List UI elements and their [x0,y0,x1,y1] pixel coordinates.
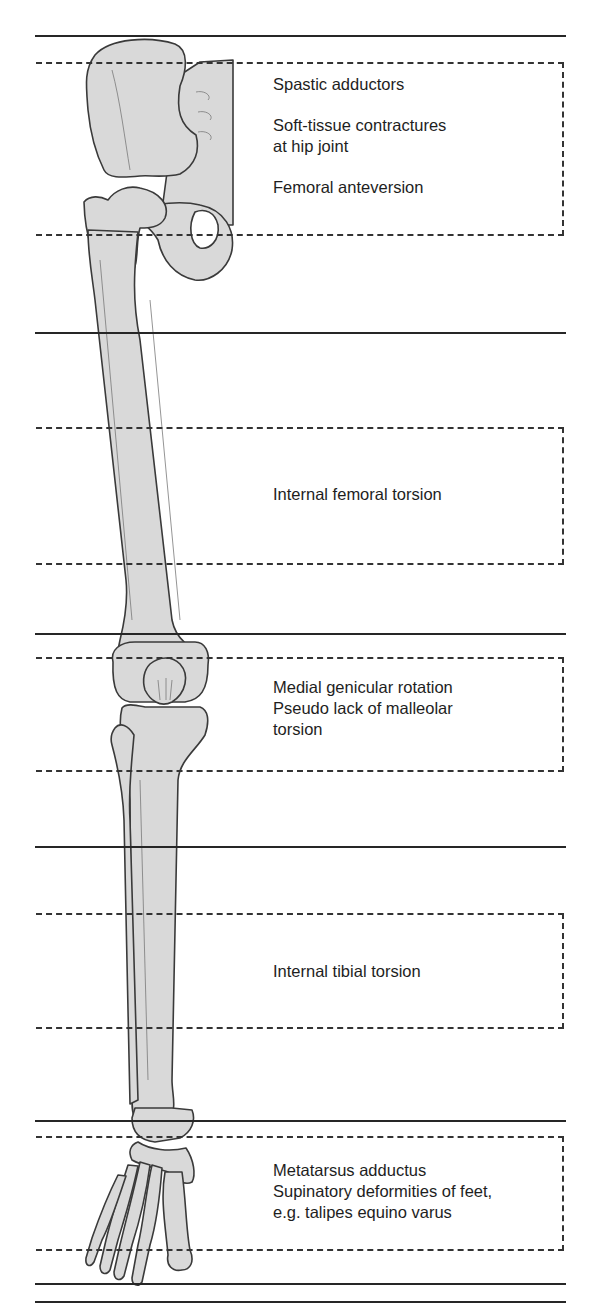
label-internal-tibial-torsion: Internal tibial torsion [273,961,421,982]
hip-labels: Spastic adductors Soft-tissue contractur… [273,74,446,198]
foot-labels: Metatarsus adductus Supinatory deformiti… [273,1160,492,1223]
label-medial-genicular-rotation: Medial genicular rotation [273,677,453,698]
diagram-canvas: Spastic adductors Soft-tissue contractur… [0,0,602,1312]
label-pseudo-lack-malleolar: Pseudo lack of malleolar [273,698,453,719]
divider-line-femur-knee [35,633,566,635]
label-metatarsus-adductus: Metatarsus adductus [273,1160,492,1181]
divider-line-tibia-foot [35,1120,566,1122]
divider-line-bottom-2 [35,1301,566,1303]
label-soft-tissue-contractures: Soft-tissue contractures [273,115,446,136]
label-femoral-anteversion: Femoral anteversion [273,177,446,198]
label-torsion: torsion [273,719,453,740]
label-supinatory-deformities: Supinatory deformities of feet, [273,1181,492,1202]
label-internal-femoral-torsion: Internal femoral torsion [273,484,442,505]
knee-labels: Medial genicular rotation Pseudo lack of… [273,677,453,740]
divider-line-hip-femur [35,332,566,334]
label-talipes-equino-varus: e.g. talipes equino varus [273,1202,492,1223]
divider-line-top [35,35,566,37]
divider-line-knee-tibia [35,846,566,848]
femur-labels: Internal femoral torsion [273,484,442,505]
divider-line-bottom-1 [35,1283,566,1285]
label-spastic-adductors: Spastic adductors [273,74,446,95]
label-at-hip-joint: at hip joint [273,136,446,157]
tibia-labels: Internal tibial torsion [273,961,421,982]
